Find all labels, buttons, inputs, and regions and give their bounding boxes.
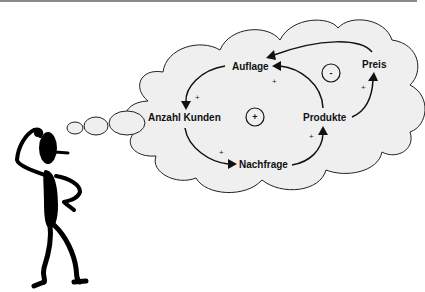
svg-text:-: - [330,68,333,78]
node-produkte: Produkte [303,112,347,123]
thinking-figure-icon [17,129,86,286]
diagram-canvas: Auflage Anzahl Kunden Nachfrage Produkte… [0,0,425,292]
polarity-plus: + [272,77,277,86]
svg-text:+: + [252,112,257,122]
polarity-plus: + [361,83,366,92]
node-nachfrage: Nachfrage [239,159,288,170]
node-auflage: Auflage [232,61,269,72]
node-anzahl-kunden: Anzahl Kunden [148,112,221,123]
thought-diagram: Auflage Anzahl Kunden Nachfrage Produkte… [0,0,425,292]
polarity-plus: + [309,132,314,141]
node-preis: Preis [362,59,387,70]
polarity-plus: + [219,148,224,157]
polarity-plus: + [195,93,200,102]
